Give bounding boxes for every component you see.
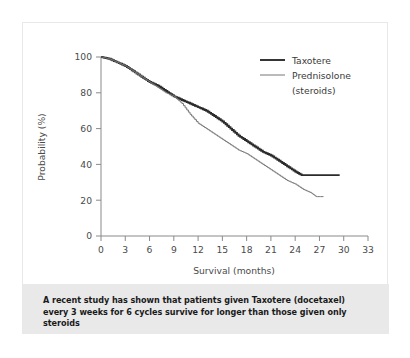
- figure-panel: 020406080100 03691215182124273033 Probab…: [22, 22, 388, 334]
- series-line-prednisolone: [101, 57, 324, 197]
- x-tick-label: 9: [171, 244, 177, 255]
- x-axis-title: Survival (months): [193, 265, 275, 276]
- x-tick-label: 3: [122, 244, 128, 255]
- y-tick-label: 100: [74, 51, 92, 62]
- y-axis-ticks: 020406080100: [74, 51, 101, 241]
- x-tick-label: 15: [217, 244, 229, 255]
- y-tick-label: 60: [80, 123, 92, 134]
- legend-label-prednisolone: Prednisolone: [292, 70, 351, 81]
- x-tick-label: 21: [265, 244, 277, 255]
- x-tick-label: 24: [289, 244, 301, 255]
- chart-legend: Taxotere Prednisolone (steroids): [260, 55, 351, 96]
- legend-label-prednisolone-sub: (steroids): [292, 85, 336, 96]
- caption-text: A recent study has shown that patients g…: [43, 295, 373, 330]
- x-tick-label: 6: [147, 244, 153, 255]
- x-tick-label: 27: [314, 244, 326, 255]
- chart-plot-area: 020406080100 03691215182124273033 Probab…: [23, 23, 389, 285]
- y-tick-label: 20: [80, 195, 92, 206]
- y-tick-label: 80: [80, 87, 92, 98]
- x-tick-label: 33: [362, 244, 374, 255]
- x-tick-label: 30: [338, 244, 350, 255]
- x-tick-label: 18: [241, 244, 253, 255]
- x-axis-ticks: 03691215182124273033: [98, 236, 374, 255]
- y-axis-title: Probability (%): [36, 113, 47, 180]
- y-tick-label: 40: [80, 159, 92, 170]
- y-tick-label: 0: [86, 230, 92, 241]
- x-tick-label: 0: [98, 244, 104, 255]
- caption-band: A recent study has shown that patients g…: [23, 284, 389, 334]
- legend-label-taxotere: Taxotere: [291, 55, 331, 66]
- survival-curve-chart: 020406080100 03691215182124273033 Probab…: [23, 23, 389, 285]
- x-tick-label: 12: [192, 244, 204, 255]
